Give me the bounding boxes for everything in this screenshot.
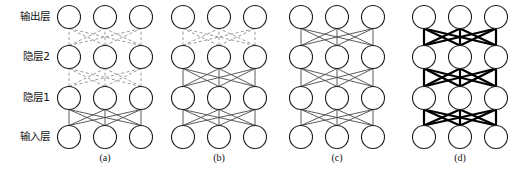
node-hidden2 — [326, 46, 349, 69]
panel-c-edges — [301, 29, 373, 126]
edge-group-hidden1-to-hidden2 — [69, 69, 141, 87]
node-hidden1 — [208, 87, 231, 110]
node-output — [172, 6, 195, 29]
node-output — [326, 6, 349, 29]
node-hidden2 — [58, 46, 81, 69]
node-output — [58, 6, 81, 29]
node-input — [413, 126, 436, 149]
node-output — [208, 6, 231, 29]
node-output — [130, 6, 153, 29]
panel-a — [58, 6, 153, 149]
node-input — [94, 126, 117, 149]
layer-label-output: 输出层 — [0, 11, 50, 22]
edge-group-input-to-hidden1 — [69, 110, 141, 126]
node-input — [326, 126, 349, 149]
layer-label-hidden2: 隐层2 — [0, 51, 50, 62]
panel-b — [172, 6, 267, 149]
node-output — [362, 6, 385, 29]
node-hidden2 — [362, 46, 385, 69]
layer-label-input: 输入层 — [0, 131, 50, 142]
node-output — [485, 6, 508, 29]
node-input — [130, 126, 153, 149]
node-hidden1 — [58, 87, 81, 110]
node-hidden2 — [172, 46, 195, 69]
node-output — [449, 6, 472, 29]
edge-group-hidden1-to-hidden2 — [424, 69, 496, 87]
node-hidden2 — [94, 46, 117, 69]
node-input — [485, 126, 508, 149]
panel-c — [290, 6, 385, 149]
edge-group-input-to-hidden1 — [183, 110, 255, 126]
panel-a-edges — [69, 29, 141, 126]
node-hidden2 — [208, 46, 231, 69]
edge-group-hidden2-to-output — [424, 29, 496, 46]
panel-b-edges — [183, 29, 255, 126]
neural-network-figure: 输出层隐层2隐层1输入层 (a)(b)(c)(d) — [0, 0, 529, 178]
node-input — [208, 126, 231, 149]
node-hidden2 — [130, 46, 153, 69]
node-input — [449, 126, 472, 149]
node-hidden1 — [290, 87, 313, 110]
panel-a-nodes — [58, 6, 153, 149]
node-hidden1 — [130, 87, 153, 110]
network-diagram-canvas — [0, 0, 529, 178]
node-hidden1 — [172, 87, 195, 110]
node-output — [290, 6, 313, 29]
panel-caption-b: (b) — [199, 153, 239, 163]
node-hidden1 — [244, 87, 267, 110]
node-hidden1 — [326, 87, 349, 110]
node-output — [413, 6, 436, 29]
panel-d-edges — [424, 29, 496, 126]
layer-label-hidden1: 隐层1 — [0, 92, 50, 103]
node-input — [290, 126, 313, 149]
panel-caption-d: (d) — [440, 153, 480, 163]
node-input — [58, 126, 81, 149]
panel-caption-c: (c) — [317, 153, 357, 163]
node-output — [244, 6, 267, 29]
node-hidden1 — [413, 87, 436, 110]
node-input — [172, 126, 195, 149]
edge-group-input-to-hidden1 — [424, 110, 496, 126]
node-hidden1 — [362, 87, 385, 110]
panel-d — [413, 6, 508, 149]
edge-group-input-to-hidden1 — [301, 110, 373, 126]
node-input — [244, 126, 267, 149]
edge-group-hidden2-to-output — [183, 29, 255, 46]
node-hidden1 — [94, 87, 117, 110]
node-hidden1 — [485, 87, 508, 110]
edge-group-hidden1-to-hidden2 — [183, 69, 255, 87]
node-hidden1 — [449, 87, 472, 110]
node-hidden2 — [290, 46, 313, 69]
node-input — [362, 126, 385, 149]
node-output — [94, 6, 117, 29]
node-hidden2 — [244, 46, 267, 69]
node-hidden2 — [485, 46, 508, 69]
node-hidden2 — [413, 46, 436, 69]
node-hidden2 — [449, 46, 472, 69]
panel-caption-a: (a) — [85, 153, 125, 163]
edge-group-hidden2-to-output — [69, 29, 141, 46]
edge-group-hidden2-to-output — [301, 29, 373, 46]
edge-group-hidden1-to-hidden2 — [301, 69, 373, 87]
